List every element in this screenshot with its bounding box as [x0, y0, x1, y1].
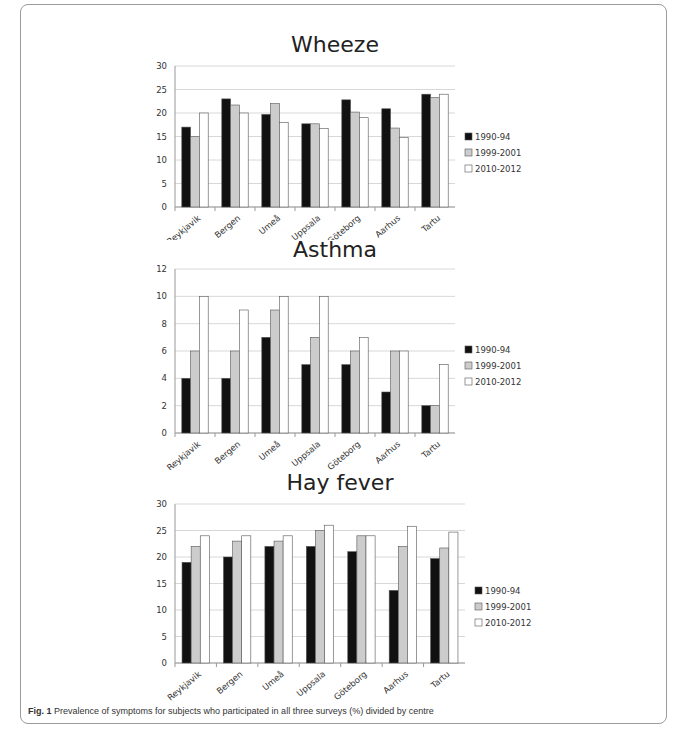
x-tick-label: Bergen [215, 669, 245, 696]
caption-label: Fig. 1 [28, 706, 52, 716]
y-tick-label: 2 [162, 401, 167, 411]
x-tick-label: Uppsala [295, 669, 328, 699]
legend-label: 1999-2001 [485, 602, 531, 612]
x-tick-label: Tartu [419, 439, 442, 461]
x-tick-label: Göteborg [332, 669, 369, 702]
y-tick-label: 15 [156, 132, 167, 142]
bar [439, 365, 448, 433]
bar [348, 552, 357, 663]
bar [399, 137, 408, 207]
caption-text: Prevalence of symptoms for subjects who … [52, 706, 434, 716]
legend-swatch [465, 133, 472, 140]
x-tick-label: Umeå [257, 439, 283, 463]
x-tick-label: Reykjavik [165, 669, 203, 703]
chart-title: Asthma [293, 237, 377, 262]
bar [182, 562, 191, 663]
bar [191, 137, 200, 208]
bar [199, 113, 208, 207]
bar [223, 557, 232, 663]
bar [351, 351, 360, 433]
x-tick-label: Tartu [428, 669, 451, 691]
bar [182, 127, 191, 207]
bar [222, 99, 231, 207]
bar [351, 112, 360, 207]
y-tick-label: 25 [156, 85, 167, 95]
bar [315, 531, 324, 664]
bar [319, 129, 328, 207]
legend-swatch [475, 587, 482, 594]
bar [342, 100, 351, 207]
legend-label: 1999-2001 [475, 148, 521, 158]
bar [325, 525, 334, 663]
bar [191, 351, 200, 433]
legend-label: 1990-94 [485, 586, 521, 596]
bar [271, 310, 280, 433]
legend-label: 1990-94 [475, 132, 511, 142]
y-tick-label: 12 [156, 264, 167, 274]
y-tick-label: 25 [156, 526, 167, 536]
bar [311, 337, 320, 433]
bar [399, 351, 408, 433]
y-tick-label: 6 [162, 346, 167, 356]
chart-title: Hay fever [287, 470, 395, 495]
figure-caption: Fig. 1 Prevalence of symptoms for subjec… [28, 706, 434, 716]
bar [357, 536, 366, 663]
bar [359, 118, 368, 207]
bar [242, 536, 251, 663]
bar [398, 546, 407, 663]
legend-swatch [465, 165, 472, 172]
bar [302, 124, 311, 207]
bar [319, 296, 328, 433]
y-tick-label: 8 [162, 319, 167, 329]
y-tick-label: 20 [156, 552, 167, 562]
bar [279, 122, 288, 207]
x-tick-label: Bergen [213, 439, 243, 466]
y-tick-label: 0 [162, 658, 167, 668]
legend-label: 2010-2012 [475, 164, 521, 174]
legend-swatch [465, 378, 472, 385]
legend-label: 1990-94 [475, 345, 511, 355]
y-tick-label: 30 [156, 61, 167, 71]
y-tick-label: 10 [156, 605, 167, 615]
bar [449, 532, 458, 663]
bar [389, 590, 398, 663]
bar [382, 109, 391, 207]
chart-hay-fever: Hay fever051015202530ReykjavikBergenUmeå… [0, 465, 683, 705]
bar [391, 128, 400, 207]
y-tick-label: 15 [156, 579, 167, 589]
bar [191, 546, 200, 663]
bar [274, 541, 283, 663]
legend-swatch [465, 346, 472, 353]
bar [342, 365, 351, 433]
y-tick-label: 5 [162, 632, 167, 642]
chart-wheeze: Wheeze051015202530ReykjavikBergenUmeåUpp… [0, 0, 683, 240]
bar [199, 296, 208, 433]
bar [422, 406, 431, 433]
y-tick-label: 0 [162, 202, 167, 212]
chart-title: Wheeze [291, 32, 379, 57]
bar [440, 548, 449, 663]
legend-label: 2010-2012 [475, 377, 521, 387]
bar [265, 546, 274, 663]
bar [382, 392, 391, 433]
y-tick-label: 5 [162, 179, 167, 189]
bar [279, 296, 288, 433]
chart-asthma: Asthma024681012ReykjavikBergenUmeåUppsal… [0, 230, 683, 470]
bar [231, 351, 240, 433]
bar [239, 113, 248, 207]
legend-swatch [465, 149, 472, 156]
bar [407, 526, 416, 663]
legend-label: 1999-2001 [475, 361, 521, 371]
y-tick-label: 4 [162, 373, 167, 383]
bar [431, 559, 440, 663]
bar [311, 124, 320, 207]
bar [262, 114, 271, 207]
bar [271, 104, 280, 207]
legend-swatch [465, 362, 472, 369]
y-tick-label: 10 [156, 155, 167, 165]
bar [239, 310, 248, 433]
bar [439, 94, 448, 207]
x-tick-label: Aarhus [373, 439, 403, 466]
bar [231, 105, 240, 207]
legend-swatch [475, 619, 482, 626]
